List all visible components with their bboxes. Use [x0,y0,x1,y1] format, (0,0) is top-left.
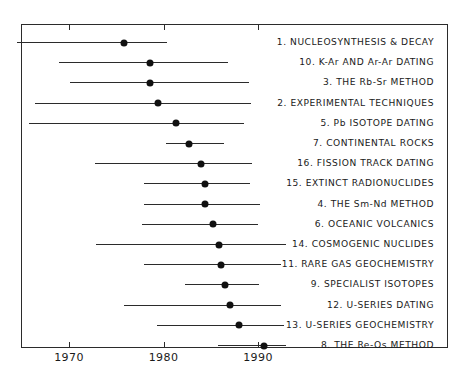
row-label: 8. THE Re-Os METHOD [321,340,434,350]
x-tick-bottom-1980 [164,342,165,348]
x-tick-top-1970 [69,24,70,30]
row-label: 12. U-SERIES DATING [327,300,434,310]
median-dot [260,342,267,349]
range-line [218,345,286,346]
row-label: 1. NUCLEOSYNTHESIS & DECAY [277,37,434,47]
range-line [166,143,224,144]
x-tick-top-1980 [164,24,165,30]
median-dot [226,302,233,309]
median-dot [216,241,223,248]
x-tick-label-1970: 1970 [54,351,84,364]
row-label: 5. Pb ISOTOPE DATING [320,118,434,128]
median-dot [172,120,179,127]
row-label: 6. OCEANIC VOLCANICS [315,219,434,229]
median-dot [147,59,154,66]
row-label: 9. SPECIALIST ISOTOPES [311,279,434,289]
median-dot [209,221,216,228]
range-line [29,123,244,124]
range-line [157,325,284,326]
row-label: 15. EXTINCT RADIONUCLIDES [286,178,434,188]
range-line [17,42,167,43]
median-dot [120,39,127,46]
median-dot [218,261,225,268]
row-label: 10. K-Ar AND Ar-Ar DATING [299,57,434,67]
range-line [59,62,228,63]
median-dot [186,140,193,147]
row-label: 3. THE Rb-Sr METHOD [323,77,434,87]
row-label: 2. EXPERIMENTAL TECHNIQUES [277,98,434,108]
x-tick-bottom-1970 [69,342,70,348]
range-line [124,305,281,306]
range-line [144,183,251,184]
range-line [35,103,251,104]
row-label: 16. FISSION TRACK DATING [297,158,434,168]
x-tick-label-1980: 1980 [149,351,179,364]
range-line [70,82,250,83]
median-dot [221,281,228,288]
x-tick-label-1990: 1990 [243,351,273,364]
median-dot [202,201,209,208]
median-dot [198,160,205,167]
median-dot [236,322,243,329]
row-label: 11. RARE GAS GEOCHEMISTRY [282,259,434,269]
row-label: 7. CONTINENTAL ROCKS [313,138,434,148]
range-line [95,163,253,164]
range-line [96,244,286,245]
range-line [144,264,281,265]
median-dot [147,79,154,86]
x-tick-top-1990 [258,24,259,30]
row-label: 14. COSMOGENIC NUCLIDES [292,239,434,249]
range-line [142,224,258,225]
median-dot [154,100,161,107]
chart-container: 197019801990 1. NUCLEOSYNTHESIS & DECAY1… [0,0,458,377]
row-label: 4. THE Sm-Nd METHOD [317,199,434,209]
row-label: 13. U-SERIES GEOCHEMISTRY [286,320,434,330]
median-dot [202,180,209,187]
